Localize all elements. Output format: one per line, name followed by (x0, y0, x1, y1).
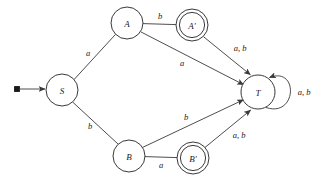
edge-S-to-B: b (73, 102, 118, 144)
edge-Bprime-to-T: a, b (204, 110, 250, 148)
state-node-T[interactable]: T (241, 75, 275, 109)
edge-label-A-T: a (180, 58, 184, 68)
edge-label-A-Aprime: b (158, 11, 162, 21)
state-node-S[interactable]: S (46, 74, 78, 106)
state-label-A: A (123, 19, 130, 29)
state-node-Bprime[interactable]: B' (177, 142, 209, 174)
edge-label-Aprime-T: a, b (234, 43, 247, 53)
state-node-A[interactable]: A (111, 7, 143, 39)
automaton-canvas: a b b a a, b a b (0, 0, 329, 184)
edge-label-Bprime-T: a, b (233, 130, 246, 140)
edge-label-S-A: a (86, 48, 90, 58)
state-label-Bprime: B' (189, 154, 197, 164)
edge-label-S-B: b (88, 121, 92, 131)
edge-B-to-Bprime: a (145, 157, 177, 170)
state-label-Aprime: A' (187, 21, 196, 31)
state-label-B: B (126, 152, 132, 162)
edge-label-T-self: a, b (298, 87, 311, 97)
state-node-B[interactable]: B (113, 140, 145, 172)
automaton-diagram: a b b a a, b a b (0, 0, 329, 184)
edge-label-B-T: b (184, 112, 188, 122)
edge-line-B-Bprime (145, 157, 177, 158)
edge-label-B-Bprime: a (159, 160, 163, 170)
edge-B-to-T: b (142, 100, 243, 148)
edge-line-S-A (74, 34, 116, 79)
state-node-Aprime[interactable]: A' (176, 9, 208, 41)
edge-S-to-A: a (74, 34, 116, 79)
edge-Aprime-to-T: a, b (204, 37, 251, 75)
edge-A-to-Aprime: b (143, 11, 176, 25)
edge-line-S-B (73, 102, 118, 144)
edge-line-B-T (142, 100, 243, 148)
start-marker (15, 87, 45, 92)
state-label-S: S (60, 86, 65, 96)
edge-line-A-Aprime (143, 24, 176, 25)
start-dot-icon (15, 87, 20, 92)
